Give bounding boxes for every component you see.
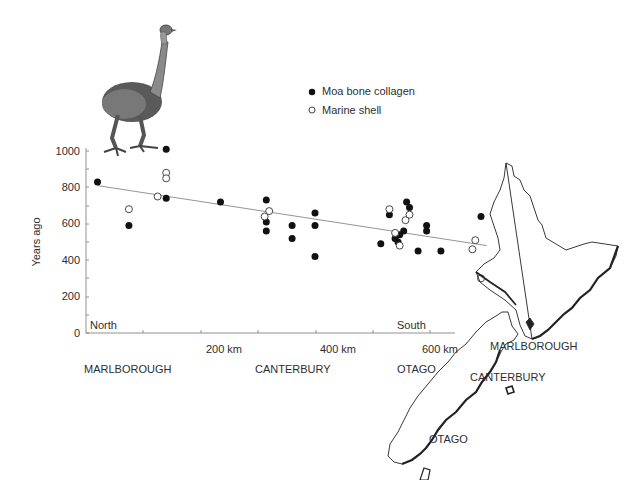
moa-bone-point — [415, 248, 422, 255]
moa-bone-point — [437, 248, 444, 255]
marine-shell-point — [163, 175, 170, 182]
south-label: South — [397, 319, 426, 331]
legend: Moa bone collagen Marine shell — [309, 85, 415, 116]
y-tick-200: 200 — [62, 290, 80, 302]
moa-bone-point — [400, 228, 407, 235]
marine-shell-point — [469, 246, 476, 253]
map-label-marlborough: MARLBOROUGH — [490, 340, 577, 352]
region-marlborough: MARLBOROUGH — [84, 363, 171, 375]
marine-shell-point — [154, 193, 161, 200]
moa-illustration — [102, 25, 177, 156]
x-axis: North South 200 km 400 km 600 km — [86, 319, 458, 355]
x-tick-600km: 600 km — [422, 343, 458, 355]
region-otago: OTAGO — [397, 363, 436, 375]
marine-shell-point — [392, 229, 399, 236]
map-labels: MARLBOROUGH CANTERBURY OTAGO — [429, 340, 577, 445]
moa-bone-point — [217, 199, 224, 206]
y-axis: 0 200 400 600 800 1000 Years ago — [30, 145, 89, 339]
marine-shell-point — [125, 206, 132, 213]
y-tick-400: 400 — [62, 254, 80, 266]
marine-shell-point — [266, 208, 273, 215]
north-label: North — [90, 319, 117, 331]
region-canterbury: CANTERBURY — [255, 363, 331, 375]
moa-bone-point — [163, 195, 170, 202]
moa-bone-point — [263, 197, 270, 204]
moa-bone-point — [478, 213, 485, 220]
moa-bone-point — [423, 222, 430, 229]
y-axis-label: Years ago — [30, 217, 42, 266]
marine-shell-point — [406, 211, 413, 218]
moa-bone-point — [289, 235, 296, 242]
legend-open-circle-icon — [309, 107, 315, 113]
legend-label-marine-shell: Marine shell — [322, 104, 381, 116]
moa-bone-point — [377, 240, 384, 247]
region-labels: MARLBOROUGH CANTERBURY OTAGO — [84, 363, 436, 375]
moa-bone-point — [312, 222, 319, 229]
legend-label-moa-bone: Moa bone collagen — [322, 85, 415, 97]
moa-bone-point — [289, 222, 296, 229]
moa-bone-point — [406, 204, 413, 211]
y-tick-1000: 1000 — [56, 145, 80, 157]
y-tick-800: 800 — [62, 181, 80, 193]
moa-bone-point — [263, 228, 270, 235]
y-tick-600: 600 — [62, 217, 80, 229]
x-tick-200km: 200 km — [206, 343, 242, 355]
moa-bone-point — [312, 253, 319, 260]
moa-bone-point — [94, 178, 101, 185]
map-label-otago: OTAGO — [429, 433, 468, 445]
moa-bone-point — [125, 222, 132, 229]
legend-filled-circle-icon — [309, 89, 315, 95]
marine-shell-point — [472, 237, 479, 244]
marine-shell-point — [396, 242, 403, 249]
map-label-canterbury: CANTERBURY — [470, 371, 546, 383]
figure: Moa bone collagen Marine shell 0 200 400… — [0, 0, 642, 480]
moa-bone-point — [312, 209, 319, 216]
moa-bone-point — [163, 146, 170, 153]
x-tick-400km: 400 km — [320, 343, 356, 355]
marine-shell-point — [386, 206, 393, 213]
data-points — [94, 146, 485, 282]
y-tick-0: 0 — [74, 327, 80, 339]
